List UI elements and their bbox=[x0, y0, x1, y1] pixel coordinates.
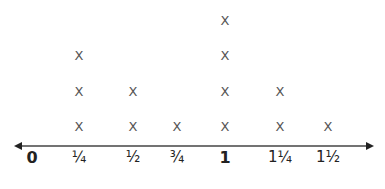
left-arrow-icon bbox=[14, 142, 22, 150]
x-mark: X bbox=[75, 120, 84, 133]
tick-label: 1 bbox=[219, 148, 230, 167]
x-mark: X bbox=[75, 49, 84, 62]
x-mark: X bbox=[276, 85, 285, 98]
right-arrow-icon bbox=[366, 142, 374, 150]
x-mark: X bbox=[221, 120, 230, 133]
tick-label: 1½ bbox=[316, 148, 340, 166]
x-mark: X bbox=[129, 85, 138, 98]
tick-label: 0 bbox=[26, 148, 37, 167]
x-mark: X bbox=[173, 120, 182, 133]
x-mark: X bbox=[129, 120, 138, 133]
line-plot: 0¼½¾11¼1½ XXXXXXXXXXXXX bbox=[0, 0, 385, 189]
x-mark: X bbox=[221, 49, 230, 62]
tick-label: ¾ bbox=[170, 148, 185, 166]
x-mark: X bbox=[324, 120, 333, 133]
x-mark: X bbox=[276, 120, 285, 133]
tick-label: ½ bbox=[126, 148, 141, 166]
tick-label: ¼ bbox=[72, 148, 87, 166]
tick-label: 1¼ bbox=[268, 148, 292, 166]
x-mark: X bbox=[221, 14, 230, 27]
x-mark: X bbox=[221, 85, 230, 98]
x-mark: X bbox=[75, 85, 84, 98]
